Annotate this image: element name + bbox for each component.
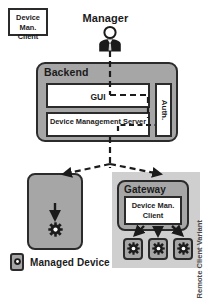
gear-icon [13, 257, 22, 266]
device-management-server-label: Device Management Server [49, 117, 147, 127]
auth-component: Auth. [155, 83, 172, 137]
managed-device-node [27, 173, 83, 250]
gui-label: GUI [48, 92, 148, 102]
gear-icon [152, 242, 165, 255]
gear-icon [48, 222, 63, 237]
gateway-label: Gateway [124, 184, 166, 195]
backend-label: Backend [44, 66, 88, 78]
device-man-client-component: Device Man. Client [8, 8, 48, 36]
gateway-device-man-client-component: Device Man. Client [124, 196, 182, 225]
gear-icon [177, 242, 190, 255]
device-management-server-component: Device Management Server [46, 112, 150, 137]
gui-component: GUI [46, 83, 150, 108]
auth-label: Auth. [159, 100, 168, 120]
legend-label: Managed Device [30, 257, 110, 268]
gear-icon [127, 242, 140, 255]
remote-client-variant-label: Remote Client Variant [195, 220, 204, 299]
device-man-client-label: Device Man. Client [11, 13, 45, 42]
person-icon [96, 26, 124, 52]
gateway-device-man-client-label: Device Man. Client [127, 201, 179, 220]
